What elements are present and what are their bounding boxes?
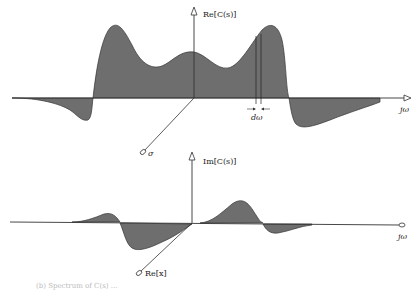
figure-caption: (b) Spectrum of C(s) ...	[36, 282, 117, 290]
sigma-axis-label: σ	[148, 149, 153, 158]
jw-axis-label-2: jω	[398, 232, 407, 241]
im-axis-arrow-icon	[189, 152, 195, 160]
diagram-canvas	[0, 0, 416, 293]
imag-part-curve-negative-2	[263, 224, 312, 233]
bottom-plot	[10, 152, 405, 276]
jw-axis-arrow-icon-2	[399, 223, 405, 227]
top-plot	[12, 7, 411, 155]
real-part-curve	[12, 25, 380, 127]
imag-part-curve-positive	[72, 213, 120, 222]
re-axis-arrow-icon	[191, 7, 197, 15]
re-x-axis-label: Re[x]	[145, 269, 167, 278]
imag-part-curve-positive-2	[200, 201, 263, 223]
d-omega-label: dω	[251, 113, 263, 122]
re-c-axis-label: Re[C(s)]	[203, 10, 236, 19]
imag-part-curve-negative	[120, 223, 192, 250]
dw-left-arrow-icon	[253, 108, 256, 111]
jw-axis-label: jω	[400, 105, 409, 114]
im-c-axis-label: Im[C(s)]	[203, 157, 236, 166]
jw-axis-arrow-icon	[404, 95, 411, 101]
dw-right-arrow-icon	[261, 108, 264, 111]
